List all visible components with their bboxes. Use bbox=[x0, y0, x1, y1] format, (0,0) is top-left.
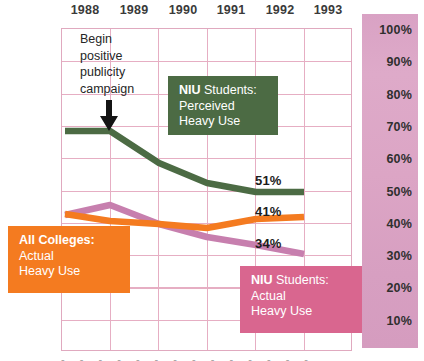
percent-label-90: 90% bbox=[386, 55, 412, 69]
callout-emphasis: NIU bbox=[179, 83, 201, 97]
percent-label-20: 20% bbox=[386, 281, 412, 295]
annotation-line-2: positive bbox=[80, 48, 158, 65]
annotation-line-3: publicity bbox=[80, 64, 158, 81]
percent-label-100: 100% bbox=[379, 23, 412, 37]
callout-emphasis: All Colleges: bbox=[19, 233, 95, 247]
callout-emphasis: NIU bbox=[251, 273, 273, 287]
callout-line-3: Heavy Use bbox=[179, 114, 269, 130]
legend-callout-niu-actual: NIU Students: Actual Heavy Use bbox=[240, 266, 362, 333]
callout-line-1: NIU Students: bbox=[251, 273, 353, 289]
annotation-line-1: Begin bbox=[80, 31, 158, 48]
percent-label-60: 60% bbox=[386, 152, 412, 166]
annotation-begin-campaign: Begin positive publicity campaign bbox=[80, 31, 158, 97]
callout-line-1-rest: Students: bbox=[201, 83, 257, 97]
callout-line-3: Heavy Use bbox=[251, 304, 353, 320]
percent-label-40: 40% bbox=[386, 217, 412, 231]
percent-label-50: 50% bbox=[386, 185, 412, 199]
legend-callout-niu-perceived: NIU Students: Perceived Heavy Use bbox=[168, 76, 278, 135]
legend-callout-all-colleges-actual: All Colleges: Actual Heavy Use bbox=[8, 226, 130, 293]
annotation-line-4: campaign bbox=[80, 81, 158, 98]
value-label-actual: 34% bbox=[255, 236, 282, 251]
callout-line-2: Actual bbox=[251, 289, 353, 305]
callout-line-1-rest: Students: bbox=[273, 273, 329, 287]
callout-line-1: NIU Students: bbox=[179, 83, 269, 99]
value-label-all-colleges: 41% bbox=[255, 204, 282, 219]
callout-line-3: Heavy Use bbox=[19, 264, 121, 280]
callout-line-2: Perceived bbox=[179, 99, 269, 115]
percent-label-30: 30% bbox=[386, 249, 412, 263]
value-label-perceived: 51% bbox=[255, 173, 282, 188]
bottom-caption-cropped: - - - - - - - - - - - - - - bbox=[61, 353, 361, 361]
callout-line-1: All Colleges: bbox=[19, 233, 121, 249]
percent-label-70: 70% bbox=[386, 120, 412, 134]
chart-container: 1988 1989 1990 1991 1992 1993 Begin bbox=[0, 0, 424, 361]
annotation-arrow-icon bbox=[100, 100, 118, 131]
percent-scale-bar: 100% 90% 80% 70% 60% 50% 40% 30% 20% 10% bbox=[362, 14, 418, 348]
callout-line-2: Actual bbox=[19, 249, 121, 265]
percent-label-80: 80% bbox=[386, 88, 412, 102]
percent-label-10: 10% bbox=[386, 314, 412, 328]
